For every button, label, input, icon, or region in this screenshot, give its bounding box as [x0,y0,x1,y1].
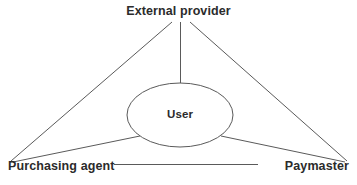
node-label-purchasing-agent: Purchasing agent [8,160,114,173]
diagram-canvas: External provider Purchasing agent Payma… [0,0,357,185]
diagram-vector-layer [0,0,357,185]
node-label-user: User [127,109,233,121]
node-label-paymaster: Paymaster [285,160,349,173]
node-label-external-provider: External provider [0,5,357,18]
